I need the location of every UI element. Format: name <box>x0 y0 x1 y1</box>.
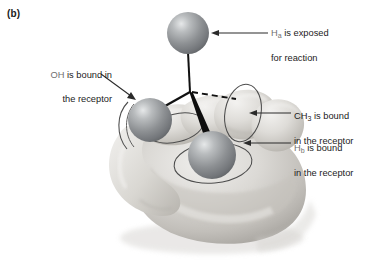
callout-oh-line1: is bound in <box>64 70 112 80</box>
callout-hb-prefix: H <box>294 143 301 153</box>
sphere-oh <box>128 98 172 142</box>
callout-oh-prefix: OH <box>50 70 64 80</box>
callout-hb-line2: in the receptor <box>294 168 353 178</box>
figure-panel-b: (b) Ha is exposed for reaction OH is bou… <box>0 0 377 263</box>
callout-hb-line1: is bound <box>305 143 343 153</box>
callout-oh-bound: OH is bound in the receptor <box>12 58 112 106</box>
sphere-hb <box>188 131 236 179</box>
callout-hb-bound: Hb is bound in the receptor <box>294 131 353 180</box>
arrow-ha <box>211 30 268 36</box>
callout-ha-exposed: Ha is exposed for reaction <box>271 16 329 65</box>
callout-ha-prefix: H <box>271 28 278 38</box>
sphere-ha <box>167 12 209 54</box>
callout-ha-line2: for reaction <box>271 53 318 63</box>
callout-ch3-line1: is bound <box>311 111 349 121</box>
callout-ha-line1: is exposed <box>282 28 329 38</box>
bond-to-ha <box>188 52 190 92</box>
callout-ch3-prefix: CH <box>294 111 307 121</box>
panel-label: (b) <box>7 8 20 19</box>
callout-oh-line2: the receptor <box>62 94 112 104</box>
